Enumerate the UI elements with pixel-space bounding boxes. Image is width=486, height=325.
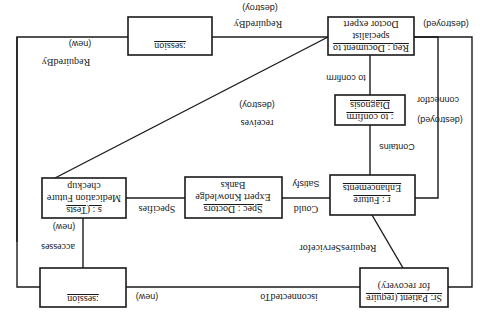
label-requiresservicefor: RequiresServicefor — [299, 243, 377, 254]
link-left-to-session-bottom — [17, 37, 40, 287]
object-label-line1: Spec : Doctors — [203, 204, 262, 215]
label-receives: receives — [241, 118, 274, 129]
label-accesses: accesses — [41, 242, 75, 253]
object-label-line2: Expert Knowledge — [195, 192, 271, 203]
label-could: Could — [294, 204, 318, 215]
object-diagnosis[interactable]: : to confirm Diagnosis — [335, 95, 405, 125]
object-label-line1: : to confirm — [346, 112, 393, 123]
object-label: :session — [154, 41, 186, 52]
object-label-line3: Banks — [220, 180, 245, 191]
object-label-line2: Diagnosis — [350, 100, 390, 111]
label-satisfy: Satisfy — [292, 179, 320, 189]
link-tests-req — [55, 37, 328, 178]
object-session-top[interactable]: :session — [128, 17, 212, 55]
label-destroyed-right-mid: (destroyed) — [417, 115, 463, 125]
object-session-bottom[interactable]: :session — [40, 268, 126, 307]
object-label-line1: s : (Tests — [66, 204, 102, 216]
object-label-line2: Medication Future — [46, 193, 121, 204]
object-interaction-diagram: :session Req : Document to specialist Do… — [0, 0, 486, 325]
label-destroy-top: (destroy) — [242, 3, 278, 13]
object-label-line2: for recovery) — [378, 280, 430, 292]
link-future-patient — [372, 215, 403, 268]
object-tests[interactable]: s : (Tests Medication Future checkup — [42, 178, 126, 218]
label-contains: Contains — [379, 142, 415, 152]
label-destroy-mid: (destroy) — [239, 100, 275, 110]
object-label-line3: Doctor expert — [343, 19, 398, 30]
object-future-enhancements[interactable]: r : Future Enhancements — [330, 175, 415, 215]
object-label-line1: r : Future — [353, 195, 391, 206]
object-label-line2: specialist — [352, 31, 389, 42]
object-label-line1: Sr: Patient (require — [365, 292, 442, 304]
object-request[interactable]: Req : Document to specialist Doctor expe… — [328, 17, 414, 55]
label-isconnectedto: isconnectedTo — [260, 292, 318, 303]
label-to-confirm: to confirm — [326, 73, 366, 83]
object-label-line2: Enhancements — [343, 183, 401, 194]
object-label: :session — [67, 294, 99, 305]
object-label-line1: Req : Document to — [333, 43, 409, 54]
label-requiredby-left: RequiredBy — [42, 57, 90, 68]
label-new-top: (new) — [69, 39, 92, 49]
label-specifies: Specifies — [139, 204, 176, 215]
label-connectfor: connectfor — [417, 95, 459, 105]
label-new-bottom: (new) — [136, 292, 159, 302]
object-label-line3: checkup — [67, 181, 100, 192]
object-spec[interactable]: Spec : Doctors Expert Knowledge Banks — [185, 177, 282, 218]
link-req-patient — [414, 37, 472, 287]
object-patient[interactable]: Sr: Patient (require for recovery) — [360, 268, 448, 307]
label-new-left: (new) — [53, 222, 76, 232]
label-destroyed-right-top: (destroyed) — [423, 19, 469, 29]
label-requiredby-top: RequiredBy — [234, 19, 282, 30]
